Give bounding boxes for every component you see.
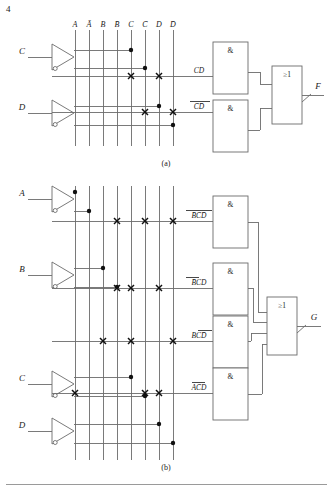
input-buffer-a-C	[52, 44, 74, 71]
input-label-b-B: B	[19, 264, 25, 274]
dot-a-C-comp[interactable]	[143, 66, 147, 70]
logic-diagram-canvas: 4AĀBB̄CC̄DD̄CDCDC̄D̄&&≥1F(a)ABCDB̄C̄D̄B…	[0, 0, 333, 497]
or-gate-a-symbol: ≥1	[283, 70, 291, 79]
and-gate-b-1-symbol: &	[228, 200, 234, 209]
caption-b: (b)	[161, 463, 171, 472]
column-label-a-8: D̄	[169, 20, 176, 29]
input-buffer-b-B	[52, 262, 74, 289]
dot-b-D-comp[interactable]	[171, 441, 175, 445]
input-label-a-D: D	[18, 102, 26, 112]
dot-b-B-true[interactable]	[101, 266, 105, 270]
input-label-b-C: C	[19, 373, 26, 383]
corner-mark: 4	[6, 4, 11, 14]
output-label-b-G: G	[311, 312, 318, 322]
figure-root: 4AĀBB̄CC̄DD̄CDCDC̄D̄&&≥1F(a)ABCDB̄C̄D̄B…	[0, 0, 333, 497]
and-gate-a-1-symbol: &	[228, 46, 234, 55]
or-gate-b-symbol: ≥1	[278, 301, 286, 310]
dot-b-A-comp[interactable]	[87, 209, 91, 213]
dot-a-D-true[interactable]	[157, 104, 161, 108]
and-gate-b-2-symbol: &	[228, 267, 234, 276]
column-label-a-4: B̄	[115, 20, 120, 29]
and-gate-b-3-symbol: &	[228, 320, 234, 329]
product-label-b-1: B̄C̄D̄	[192, 211, 208, 220]
input-buffer-b-D	[52, 418, 74, 445]
input-label-b-A: A	[18, 188, 25, 198]
column-label-a-3: B	[101, 20, 106, 29]
dot-b-C-true[interactable]	[129, 375, 133, 379]
column-label-a-2: Ā	[86, 20, 92, 29]
input-buffer-a-D	[52, 100, 74, 127]
column-label-a-1: A	[72, 20, 78, 29]
input-buffer-b-C	[52, 371, 74, 398]
column-label-a-7: D	[155, 20, 162, 29]
and-gate-a-2-symbol: &	[228, 104, 234, 113]
product-label-b-4: AC̄D	[191, 383, 208, 392]
product-label-b-3: BCD̄	[192, 331, 208, 340]
input-buffer-b-A	[52, 186, 74, 213]
dot-a-D-comp[interactable]	[171, 123, 175, 127]
product-label-a-1: CD	[194, 66, 205, 75]
input-label-a-C: C	[19, 46, 26, 56]
column-label-a-5: C	[128, 20, 134, 29]
output-label-a-F: F	[314, 81, 321, 91]
product-label-a-2: C̄D̄	[194, 102, 205, 111]
dot-b-A-true[interactable]	[73, 190, 77, 194]
column-label-a-6: C̄	[142, 20, 148, 29]
caption-a: (a)	[162, 159, 171, 168]
input-label-b-D: D	[18, 420, 26, 430]
product-label-b-2: B̄CD	[192, 278, 208, 287]
and-gate-b-4-symbol: &	[228, 372, 234, 381]
dot-a-C-true[interactable]	[129, 48, 133, 52]
dot-b-D-true[interactable]	[157, 422, 161, 426]
